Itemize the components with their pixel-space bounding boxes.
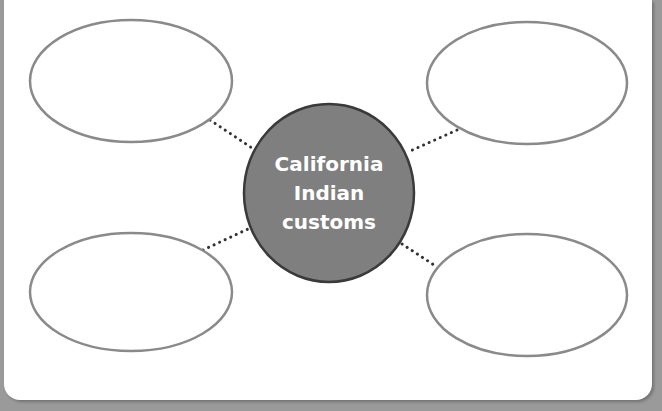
connector-bottom-left (203, 229, 248, 250)
connector-bottom-right (402, 244, 434, 265)
center-circle (244, 104, 414, 282)
connector-top-left (210, 120, 252, 148)
bubble-top-left[interactable] (30, 20, 232, 142)
concept-web-diagram (0, 0, 662, 411)
bubble-bottom-left[interactable] (30, 233, 232, 351)
connector-top-right (408, 130, 457, 152)
bubble-top-right[interactable] (427, 22, 627, 144)
bubble-bottom-right[interactable] (427, 234, 627, 356)
